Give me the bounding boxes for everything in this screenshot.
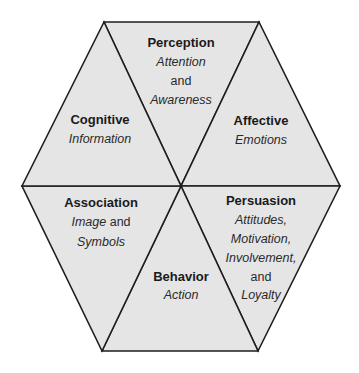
behavior-line-1: Action bbox=[163, 288, 199, 302]
association-line-1: Image and bbox=[71, 215, 130, 229]
persuasion-line-4: and bbox=[251, 270, 272, 284]
behavior-title: Behavior bbox=[153, 269, 209, 284]
association-line-2: Symbols bbox=[77, 235, 125, 249]
association-line-1b: and bbox=[106, 215, 130, 229]
affective-title: Affective bbox=[234, 113, 289, 128]
association-line-1a: Image bbox=[71, 215, 106, 229]
perception-line-3: Awareness bbox=[149, 93, 212, 107]
persuasion-line-3: Involvement, bbox=[226, 251, 297, 265]
persuasion-line-2: Motivation, bbox=[231, 232, 291, 246]
association-title: Association bbox=[64, 195, 138, 210]
cognitive-line-1: Information bbox=[69, 132, 132, 146]
persuasion-title: Persuasion bbox=[226, 193, 296, 208]
perception-line-1: Attention bbox=[155, 55, 205, 69]
hexagon-diagram: Perception Attention and Awareness Cogni… bbox=[0, 0, 359, 373]
persuasion-line-5: Loyalty bbox=[241, 288, 281, 302]
persuasion-line-1: Attitudes, bbox=[234, 213, 287, 227]
affective-line-1: Emotions bbox=[235, 133, 287, 147]
perception-title: Perception bbox=[147, 35, 214, 50]
cognitive-title: Cognitive bbox=[70, 112, 129, 127]
perception-line-2: and bbox=[171, 74, 192, 88]
